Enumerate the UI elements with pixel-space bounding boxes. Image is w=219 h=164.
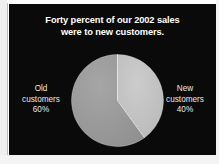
- page-rule-left: [7, 3, 8, 161]
- page-margin-right: [216, 0, 219, 164]
- slide-panel: Forty percent of our 2002 sales were to …: [9, 4, 216, 155]
- slide-frame: Forty percent of our 2002 sales were to …: [0, 0, 219, 164]
- page-margin-bottom: [0, 155, 219, 164]
- pie-chart: [71, 54, 164, 147]
- pie-label-old-customers: Old customers 60%: [13, 84, 69, 116]
- pie-label-new-customers: New customers 40%: [157, 84, 213, 116]
- pie-chart-svg: [71, 54, 164, 147]
- slide-title: Forty percent of our 2002 sales were to …: [9, 15, 216, 38]
- page-margin-left: [0, 0, 7, 164]
